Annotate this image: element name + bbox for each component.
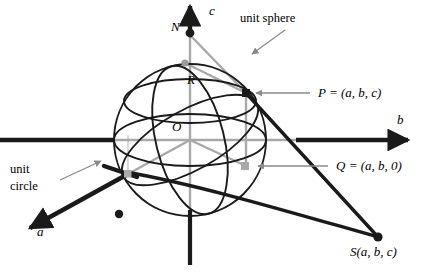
axis-a-arrow <box>30 174 128 228</box>
point-label-Q: Q = (a, b, 0) <box>336 159 402 172</box>
axes-black <box>0 6 408 265</box>
point-label-P: P = (a, b, c) <box>318 86 381 99</box>
marker-a-axis-point <box>124 170 132 178</box>
axis-label-b: b <box>397 113 404 126</box>
marker-S <box>373 232 382 241</box>
point-label-R: R <box>187 73 195 86</box>
point-label-N: N <box>171 20 180 33</box>
marker-sphere-lower-left-point <box>115 210 123 218</box>
marker-R <box>181 59 188 66</box>
annotation-unit-circle-line2: circle <box>10 180 38 193</box>
axis-label-c: c <box>209 4 215 17</box>
axis-label-a: a <box>37 225 44 238</box>
construction-lines-gray <box>113 33 296 210</box>
marker-P <box>242 89 250 97</box>
leader-unit-sphere <box>252 30 285 54</box>
annotation-unit-sphere: unit sphere <box>240 12 295 25</box>
point-label-O: O <box>172 120 181 133</box>
annotation-unit-circle-line1: unit <box>10 163 29 176</box>
point-label-S: S(a, b, c) <box>350 245 397 258</box>
marker-Q <box>241 162 249 170</box>
marker-N <box>186 29 195 38</box>
stereographic-projection-figure: c b a N R O P = (a, b, c) Q = (a, b, 0) … <box>0 0 426 272</box>
diagram-canvas <box>0 0 426 272</box>
leader-unit-circle <box>60 161 101 180</box>
